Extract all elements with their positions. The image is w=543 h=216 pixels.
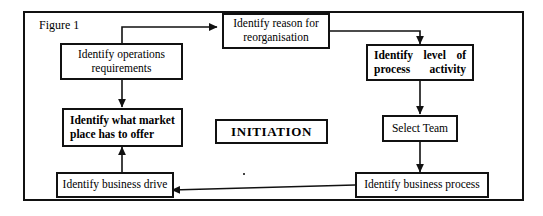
- node-select-team-label: Select Team: [384, 122, 456, 136]
- node-operations-requirements-label: Identify operations requirements: [62, 48, 181, 75]
- node-initiation[interactable]: INITIATION: [215, 119, 328, 144]
- node-business-drive[interactable]: Identify business drive: [56, 172, 174, 198]
- node-market-place[interactable]: Identify what market place has to offer: [62, 108, 183, 147]
- node-reason-reorganisation-label: Identify reason for reorganisation: [224, 17, 328, 44]
- node-business-process[interactable]: Identify business process: [355, 172, 489, 198]
- node-operations-requirements[interactable]: Identify operations requirements: [60, 43, 183, 80]
- node-select-team[interactable]: Select Team: [382, 115, 458, 142]
- node-level-process-activity-label: Identify level of process activity: [368, 49, 472, 76]
- node-business-drive-label: Identify business drive: [58, 178, 172, 192]
- figure-canvas: Figure 1: [0, 0, 543, 216]
- node-reason-reorganisation[interactable]: Identify reason for reorganisation: [222, 13, 330, 49]
- node-level-process-activity[interactable]: Identify level of process activity: [366, 44, 474, 81]
- scan-speck: [243, 173, 245, 175]
- node-market-place-label: Identify what market place has to offer: [64, 114, 181, 141]
- figure-label: Figure 1: [39, 18, 79, 33]
- node-initiation-label: INITIATION: [231, 124, 312, 140]
- node-business-process-label: Identify business process: [357, 178, 487, 192]
